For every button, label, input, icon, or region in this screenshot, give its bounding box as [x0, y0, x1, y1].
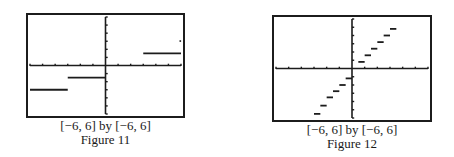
plot-point: [180, 40, 182, 42]
window-caption: [−6, 6] by [−6, 6]: [272, 123, 432, 137]
graph-screen-figure-11: [26, 13, 185, 118]
caption-figure-12: [−6, 6] by [−6, 6] Figure 12: [272, 123, 432, 151]
figure-label: Figure 11: [26, 133, 185, 147]
figure-label: Figure 12: [272, 137, 432, 151]
caption-figure-11: [−6, 6] by [−6, 6] Figure 11: [26, 119, 185, 147]
graph-screen-figure-12: [272, 15, 432, 122]
graph-plot-figure-11: [28, 15, 183, 116]
graph-plot-figure-12: [274, 17, 430, 120]
window-caption: [−6, 6] by [−6, 6]: [26, 119, 185, 133]
